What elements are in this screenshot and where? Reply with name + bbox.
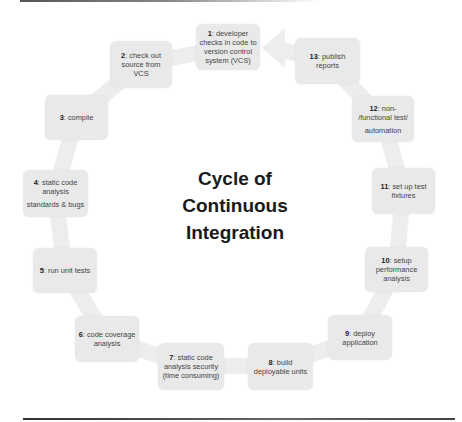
step-6-box: 6: code coverage analysis bbox=[75, 316, 139, 362]
step-13-box: 13: publish reports bbox=[295, 38, 360, 84]
step-text: code coverage bbox=[87, 330, 135, 339]
step-text: developer bbox=[216, 29, 248, 38]
step-11-box: 11: set up test fixtures bbox=[372, 168, 435, 214]
step-number: 10 bbox=[381, 256, 389, 265]
step-12-box: 12: non- /functional test/ automation bbox=[352, 96, 414, 142]
step-number: 12 bbox=[369, 104, 377, 113]
step-text: run unit tests bbox=[48, 266, 90, 275]
step-text: performance bbox=[376, 265, 418, 274]
step-text: deploy bbox=[353, 329, 375, 338]
step-text: reports bbox=[316, 61, 339, 70]
step-number: 2 bbox=[121, 51, 125, 60]
step-text: (time consuming) bbox=[163, 371, 220, 380]
step-8-box: 8: build deployable units bbox=[248, 343, 313, 390]
step-number: 11 bbox=[380, 182, 388, 191]
step-text: compile bbox=[68, 113, 93, 122]
step-text: setup bbox=[394, 256, 412, 265]
step-5-box: 5: run unit tests bbox=[33, 248, 97, 293]
step-text: version control bbox=[204, 47, 252, 56]
step-number: 9 bbox=[345, 329, 349, 338]
step-text: analysis bbox=[42, 187, 69, 196]
arrow-head-icon bbox=[262, 28, 285, 68]
step-number: 5 bbox=[40, 266, 44, 275]
step-text: publish bbox=[322, 52, 345, 61]
step-text: build bbox=[277, 358, 293, 367]
bottom-rule bbox=[23, 418, 455, 420]
diagram-title: Cycle of Continuous Integration bbox=[150, 165, 320, 246]
step-text: analysis bbox=[383, 274, 410, 283]
step-text: analysis security bbox=[164, 362, 218, 371]
step-1-box: 1: developer checks in code to version c… bbox=[196, 24, 260, 70]
step-text: application bbox=[342, 338, 377, 347]
step-text: analysis bbox=[94, 339, 121, 348]
step-10-box: 10: setup performance analysis bbox=[365, 247, 428, 292]
step-subtext: automation bbox=[365, 126, 402, 135]
step-text: static code bbox=[177, 353, 212, 362]
step-text: source from VCS bbox=[113, 60, 169, 78]
step-subtext: standards & bugs bbox=[27, 200, 85, 209]
step-text: check out bbox=[129, 51, 161, 60]
title-line: Continuous bbox=[150, 192, 320, 219]
step-number: 4 bbox=[34, 178, 38, 187]
step-text: system (VCS) bbox=[205, 56, 251, 65]
step-text: fixtures bbox=[392, 191, 416, 200]
title-line: Cycle of bbox=[150, 165, 320, 192]
step-number: 7 bbox=[169, 353, 173, 362]
step-7-box: 7: static code analysis security (time c… bbox=[158, 343, 224, 390]
step-text: checks in code to bbox=[199, 38, 256, 47]
step-4-box: 4: static code analysis standards & bugs bbox=[23, 170, 88, 217]
step-text: deployable units bbox=[254, 367, 307, 376]
step-text: set up test bbox=[392, 182, 426, 191]
step-9-box: 9: deploy application bbox=[328, 315, 392, 360]
step-number: 13 bbox=[310, 52, 318, 61]
step-number: 3 bbox=[60, 113, 64, 122]
step-text: non- bbox=[382, 104, 397, 113]
step-text: /functional test/ bbox=[358, 113, 408, 122]
step-number: 8 bbox=[269, 358, 273, 367]
title-line: Integration bbox=[150, 219, 320, 246]
step-2-box: 2: check out source from VCS bbox=[110, 41, 172, 88]
step-text: static code bbox=[42, 178, 77, 187]
step-number: 1 bbox=[208, 29, 212, 38]
step-3-box: 3: compile bbox=[45, 95, 108, 140]
step-number: 6 bbox=[79, 330, 83, 339]
